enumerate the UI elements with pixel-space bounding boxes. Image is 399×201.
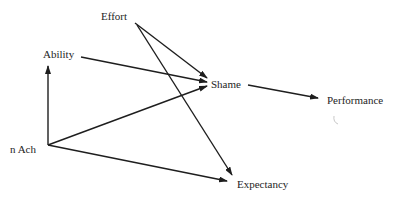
- arrow-effort-to-expectancy: [137, 25, 232, 175]
- node-effort: Effort: [101, 11, 127, 22]
- arrow-ability-to-shame: [81, 57, 207, 82]
- arrow-nach-to-shame: [48, 86, 207, 145]
- smudge-mark: [334, 116, 338, 124]
- node-nach: n Ach: [10, 144, 36, 155]
- node-expectancy: Expectancy: [237, 179, 288, 190]
- arrow-nach-to-expectancy: [48, 145, 227, 181]
- edge-group: [48, 23, 318, 181]
- arrow-shame-to-performance: [248, 85, 318, 98]
- node-ability: Ability: [43, 49, 74, 60]
- node-performance: Performance: [327, 95, 383, 106]
- node-shame: Shame: [211, 79, 241, 90]
